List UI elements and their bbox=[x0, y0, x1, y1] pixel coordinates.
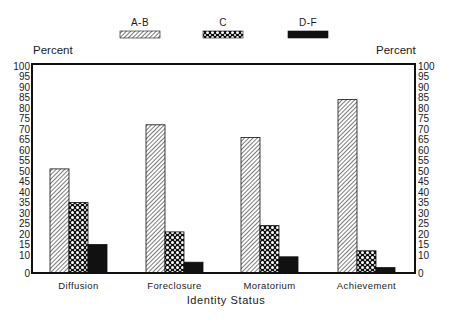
y-tick-label-left: 65 bbox=[19, 134, 31, 145]
y-tick-label-left: 30 bbox=[19, 208, 31, 219]
y-tick-label-left: 70 bbox=[19, 124, 31, 135]
y-ticks-right: 0101520253035404550556065707580859095100 bbox=[418, 61, 435, 279]
bar-group-achievement bbox=[338, 100, 395, 273]
y-tick-label-left: 20 bbox=[19, 229, 31, 240]
bar-c-foreclosure bbox=[165, 232, 184, 273]
x-category-label: Diffusion bbox=[58, 280, 98, 291]
y-tick-label-right: 35 bbox=[418, 197, 430, 208]
y-axis-title-left: Percent bbox=[33, 44, 73, 56]
y-ticks-left: 0101520253035404550556065707580859095100 bbox=[13, 61, 30, 279]
legend-item-d-f: D-F bbox=[288, 17, 328, 38]
x-category-label: Moratorium bbox=[243, 280, 295, 291]
bar-c-achievement bbox=[357, 251, 376, 273]
bar-a-b-diffusion bbox=[50, 169, 69, 273]
y-tick-label-right: 95 bbox=[418, 71, 430, 82]
bar-group-foreclosure bbox=[146, 125, 203, 273]
y-tick-label-right: 80 bbox=[418, 103, 430, 114]
x-category-label: Foreclosure bbox=[147, 280, 202, 291]
y-tick-label-left: 55 bbox=[19, 155, 31, 166]
y-tick-label-right: 60 bbox=[418, 145, 430, 156]
y-axis-title-right: Percent bbox=[376, 44, 416, 56]
y-tick-label-right: 20 bbox=[418, 229, 430, 240]
y-tick-label-right: 85 bbox=[418, 92, 430, 103]
legend-swatch-solid-black bbox=[288, 31, 328, 38]
y-tick-label-right: 10 bbox=[418, 250, 430, 261]
y-tick-label-left: 85 bbox=[19, 92, 31, 103]
y-tick-label-left: 90 bbox=[19, 82, 31, 93]
y-tick-label-left: 25 bbox=[19, 218, 31, 229]
y-tick-label-right: 45 bbox=[418, 176, 430, 187]
y-tick-label-right: 55 bbox=[418, 155, 430, 166]
y-tick-label-left: 0 bbox=[24, 268, 30, 279]
legend-swatch-crosshatch bbox=[203, 31, 243, 38]
y-tick-label-right: 75 bbox=[418, 113, 430, 124]
y-tick-label-left: 35 bbox=[19, 197, 31, 208]
bar-d-f-foreclosure bbox=[184, 262, 203, 273]
y-tick-label-left: 15 bbox=[19, 239, 31, 250]
y-tick-label-left: 95 bbox=[19, 71, 31, 82]
bars bbox=[50, 100, 395, 273]
y-tick-label-right: 65 bbox=[418, 134, 430, 145]
y-tick-label-left: 10 bbox=[19, 250, 31, 261]
y-tick-label-right: 40 bbox=[418, 187, 430, 198]
y-tick-label-right: 15 bbox=[418, 239, 430, 250]
x-category-label: Achievement bbox=[337, 280, 396, 291]
legend-label: A-B bbox=[131, 17, 149, 28]
legend-swatch-diagonal-hatch bbox=[120, 31, 160, 38]
y-tick-label-right: 90 bbox=[418, 82, 430, 93]
legend-label: C bbox=[219, 17, 227, 28]
y-tick-label-left: 40 bbox=[19, 187, 31, 198]
y-tick-label-right: 0 bbox=[418, 268, 424, 279]
bar-a-b-foreclosure bbox=[146, 125, 165, 273]
bar-a-b-achievement bbox=[338, 100, 357, 273]
x-axis-title: Identity Status bbox=[187, 294, 266, 306]
bar-c-diffusion bbox=[69, 203, 88, 274]
legend-item-c: C bbox=[203, 17, 243, 38]
bar-group-moratorium bbox=[241, 137, 298, 273]
bar-a-b-moratorium bbox=[241, 137, 260, 273]
y-tick-label-left: 45 bbox=[19, 176, 31, 187]
y-tick-label-left: 80 bbox=[19, 103, 31, 114]
y-tick-label-right: 100 bbox=[418, 61, 435, 72]
bar-group-diffusion bbox=[50, 169, 107, 273]
y-tick-label-right: 30 bbox=[418, 208, 430, 219]
y-tick-label-right: 50 bbox=[418, 166, 430, 177]
bar-d-f-moratorium bbox=[279, 257, 298, 273]
legend-label: D-F bbox=[299, 17, 317, 28]
bar-d-f-diffusion bbox=[88, 245, 107, 274]
y-tick-label-left: 100 bbox=[13, 61, 30, 72]
identity-status-bar-chart: A-BCD-F Percent Percent 0101520253035404… bbox=[0, 0, 450, 323]
legend-item-a-b: A-B bbox=[120, 17, 160, 38]
x-category-labels: DiffusionForeclosureMoratoriumAchievemen… bbox=[58, 280, 396, 291]
legend: A-BCD-F bbox=[120, 17, 328, 38]
y-tick-label-right: 25 bbox=[418, 218, 430, 229]
y-tick-label-left: 60 bbox=[19, 145, 31, 156]
y-tick-label-right: 70 bbox=[418, 124, 430, 135]
y-tick-label-left: 75 bbox=[19, 113, 31, 124]
y-tick-label-left: 50 bbox=[19, 166, 31, 177]
bar-c-moratorium bbox=[260, 226, 279, 273]
